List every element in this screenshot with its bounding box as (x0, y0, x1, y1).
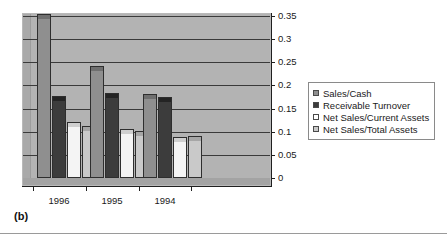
legend-swatch-icon (313, 102, 319, 108)
bar-top-face (120, 129, 134, 134)
bar-1995-series1 (105, 97, 119, 178)
x-axis-tick (139, 186, 140, 191)
y-axis-tick (271, 155, 275, 156)
y-axis-tick-label: 0.25 (278, 57, 297, 67)
y-axis-tick-label: 0.1 (278, 127, 291, 137)
bar-top-face (52, 96, 66, 101)
x-axis-label-1995: 1995 (96, 195, 128, 206)
legend-item: Receivable Turnover (313, 99, 429, 111)
legend-label: Receivable Turnover (323, 100, 410, 111)
y-axis-tick-label: 0.2 (278, 80, 291, 90)
bar-1996-series2 (67, 126, 81, 178)
gridline (23, 62, 270, 63)
chart-legend: Sales/CashReceivable TurnoverNet Sales/C… (308, 82, 435, 140)
x-axis-tick (191, 186, 192, 191)
y-axis-tick-label: 0.3 (278, 34, 291, 44)
y-axis-tick-label: 0.35 (278, 11, 297, 21)
bar-top-face (37, 14, 51, 19)
plot-area (22, 13, 271, 186)
bar-top-face (158, 97, 172, 102)
figure-area: 00.050.10.150.20.250.30.35 199619951994 … (0, 0, 447, 240)
legend-item: Sales/Cash (313, 87, 429, 99)
legend-label: Net Sales/Current Assets (323, 112, 429, 123)
y-axis-tick-label: 0 (278, 173, 283, 183)
x-axis-tick (33, 186, 34, 191)
y-axis-tick (271, 16, 275, 17)
figure-caption: (b) (14, 210, 28, 222)
bar-top-face (173, 137, 187, 142)
legend-label: Net Sales/Total Assets (323, 124, 418, 135)
bar-1996-series0 (37, 18, 51, 178)
bar-top-face (90, 66, 104, 71)
legend-item: Net Sales/Total Assets (313, 123, 429, 135)
chart-screenshot: 00.050.10.150.20.250.30.35 199619951994 … (0, 0, 447, 240)
plot-floor (23, 178, 270, 185)
bar-1995-series0 (90, 70, 104, 178)
y-axis-tick (271, 132, 275, 133)
y-axis-tick (271, 62, 275, 63)
bar-1994-series2 (173, 141, 187, 178)
bar-top-face (67, 122, 81, 127)
legend-item: Net Sales/Current Assets (313, 111, 429, 123)
y-axis-tick-label: 0.05 (278, 150, 297, 160)
bar-top-face (143, 94, 157, 99)
bar-1994-series3 (188, 140, 202, 178)
gridline (23, 16, 270, 17)
legend-swatch-icon (313, 114, 319, 120)
bar-top-face (105, 93, 119, 98)
x-axis-label-1994: 1994 (149, 195, 181, 206)
bar-1995-series2 (120, 133, 134, 178)
legend-label: Sales/Cash (323, 88, 372, 99)
gridline (23, 39, 270, 40)
x-axis-tick (86, 186, 87, 191)
y-axis-tick (271, 85, 275, 86)
bar-1994-series1 (158, 101, 172, 178)
plot-inner (23, 14, 270, 185)
y-axis-tick (271, 109, 275, 110)
x-axis-label-1996: 1996 (43, 195, 75, 206)
y-axis-tick (271, 178, 275, 179)
legend-swatch-icon (313, 90, 319, 96)
gridline (23, 85, 270, 86)
bottom-divider (0, 233, 447, 234)
bar-1994-series0 (143, 98, 157, 178)
bar-1996-series1 (52, 100, 66, 178)
x-axis-line (22, 186, 272, 187)
y-axis-tick-label: 0.15 (278, 104, 297, 114)
y-axis-tick (271, 39, 275, 40)
legend-swatch-icon (313, 126, 319, 132)
bar-top-face (188, 136, 202, 141)
